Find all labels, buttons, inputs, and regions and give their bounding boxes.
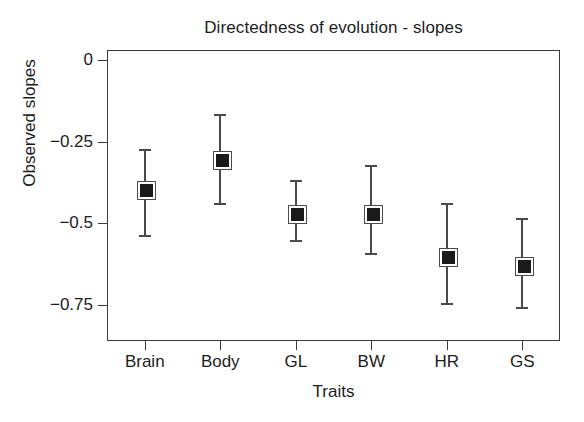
x-axis-tick-label: Body [201, 352, 240, 372]
error-bar-cap-upper [516, 218, 528, 220]
y-axis-tick [98, 60, 107, 61]
error-bar-cap-upper [139, 149, 151, 151]
error-bar-cap-upper [365, 165, 377, 167]
x-axis-tick [522, 341, 523, 350]
data-point-marker [365, 206, 382, 223]
error-bar-cap-upper [290, 180, 302, 182]
data-point-marker [440, 249, 457, 266]
x-axis-tick [371, 341, 372, 350]
error-bar-cap-lower [516, 307, 528, 309]
error-bar-cap-lower [365, 253, 377, 255]
x-axis-title: Traits [107, 382, 560, 402]
y-axis-tick [98, 142, 107, 143]
error-bar-cap-upper [214, 114, 226, 116]
data-point-marker [289, 206, 306, 223]
x-axis-tick [296, 341, 297, 350]
x-axis-tick [220, 341, 221, 350]
y-axis-tick-label: 0 [0, 50, 93, 70]
y-axis-tick-label: −0.75 [0, 295, 93, 315]
x-axis-tick-label: GS [510, 352, 535, 372]
x-axis-tick-label: GL [284, 352, 307, 372]
error-bar-cap-lower [139, 235, 151, 237]
y-axis-tick [98, 305, 107, 306]
data-point-marker [138, 182, 155, 199]
x-axis-tick [145, 341, 146, 350]
x-axis-tick-label: HR [434, 352, 459, 372]
data-point-marker [214, 152, 231, 169]
chart-figure: Directedness of evolution - slopes Obser… [0, 0, 584, 422]
plot-area [107, 50, 560, 341]
chart-title: Directedness of evolution - slopes [107, 18, 560, 38]
y-axis-tick-label: −0.25 [0, 132, 93, 152]
data-point-marker [516, 258, 533, 275]
x-axis-tick [447, 341, 448, 350]
error-bar-cap-upper [441, 203, 453, 205]
x-axis-tick-label: BW [358, 352, 385, 372]
error-bar-cap-lower [290, 240, 302, 242]
x-axis-tick-label: Brain [125, 352, 165, 372]
y-axis-tick [98, 223, 107, 224]
error-bar-cap-lower [214, 203, 226, 205]
y-axis-tick-label: −0.5 [0, 213, 93, 233]
error-bar-cap-lower [441, 303, 453, 305]
y-axis-title: Observed slopes [20, 3, 40, 243]
